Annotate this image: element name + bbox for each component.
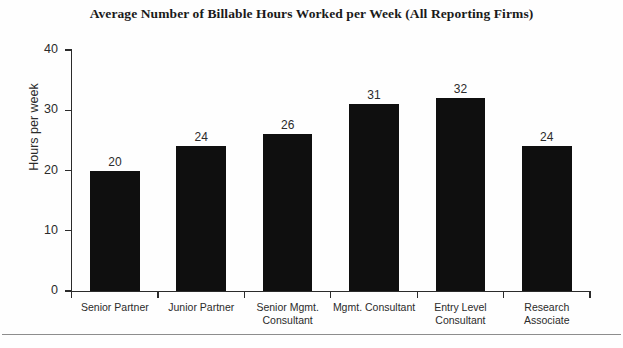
bar [90, 171, 140, 292]
chart-title: Average Number of Billable Hours Worked … [0, 6, 623, 22]
x-axis-category-label-line: Entry Level [417, 301, 503, 314]
y-axis-tick-label: 0 [12, 283, 58, 297]
y-axis-tick [65, 170, 72, 171]
x-axis-category-label-line: Senior Partner [72, 301, 158, 314]
bar [263, 134, 313, 291]
x-axis-tick [589, 291, 590, 298]
x-axis-category-label-line: Mgmt. Consultant [331, 301, 417, 314]
bar-value-label: 24 [171, 130, 231, 144]
y-axis-tick-label: 20 [12, 163, 58, 177]
bar-value-label: 31 [344, 88, 404, 102]
bar [349, 104, 399, 291]
bar-value-label: 20 [85, 155, 145, 169]
y-axis-tick-label: 30 [12, 102, 58, 116]
x-axis-tick [503, 291, 504, 298]
y-axis-tick-label: 10 [12, 223, 58, 237]
bottom-divider [2, 334, 621, 335]
bar-value-label: 24 [517, 130, 577, 144]
chart-page: Average Number of Billable Hours Worked … [0, 0, 623, 348]
bar [176, 146, 226, 291]
x-axis-category-label-line: Consultant [417, 314, 503, 327]
x-axis-category-label: ResearchAssociate [504, 301, 590, 326]
bar-value-label: 32 [430, 82, 490, 96]
bar [522, 146, 572, 291]
x-axis-category-label-line: Research [504, 301, 590, 314]
x-axis-category-label: Senior Mgmt.Consultant [244, 301, 330, 326]
x-axis-category-label-line: Associate [504, 314, 590, 327]
y-axis-tick [65, 49, 72, 50]
x-axis-tick [71, 291, 72, 298]
y-axis-tick [65, 110, 72, 111]
bar-value-label: 26 [258, 118, 318, 132]
x-axis-category-label: Mgmt. Consultant [331, 301, 417, 314]
bar [436, 98, 486, 291]
y-axis-tick-label: 40 [12, 42, 58, 56]
x-axis-category-label-line: Consultant [244, 314, 330, 327]
y-axis-tick [65, 230, 72, 231]
x-axis-tick [417, 291, 418, 298]
x-axis-category-label: Entry LevelConsultant [417, 301, 503, 326]
x-axis-category-label: Senior Partner [72, 301, 158, 314]
x-axis-category-label-line: Senior Mgmt. [244, 301, 330, 314]
x-axis-tick [244, 291, 245, 298]
x-axis-tick [330, 291, 331, 298]
x-axis-tick [157, 291, 158, 298]
x-axis-category-label: Junior Partner [158, 301, 244, 314]
x-axis-category-label-line: Junior Partner [158, 301, 244, 314]
